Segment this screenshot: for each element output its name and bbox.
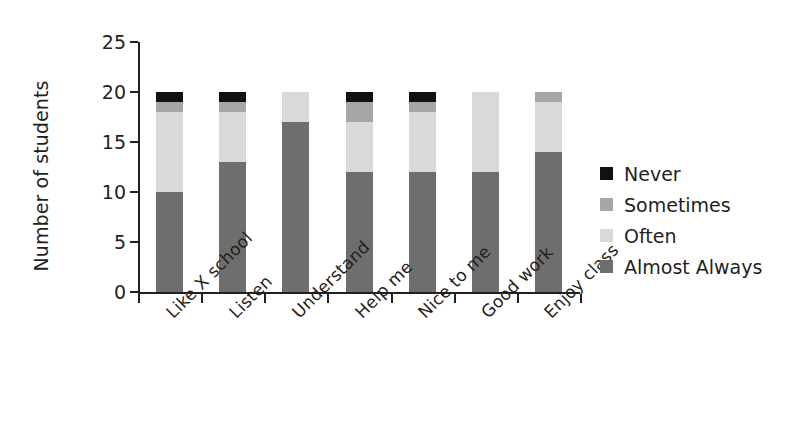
y-axis-tick: [130, 291, 138, 293]
bar-segment: [346, 122, 373, 172]
legend-item-label: Sometimes: [624, 194, 731, 216]
bar-segment: [409, 92, 436, 102]
legend-swatch-icon: [600, 167, 613, 180]
bar-segment: [156, 92, 183, 102]
bar-segment: [282, 92, 309, 122]
legend-item[interactable]: Never: [600, 158, 805, 189]
y-axis-tick-label: 0: [114, 281, 126, 303]
legend-item[interactable]: Sometimes: [600, 189, 805, 220]
legend: NeverSometimesOftenAlmost Always: [600, 158, 805, 282]
y-axis-tick-label: 20: [102, 81, 126, 103]
bar-segment: [219, 102, 246, 112]
y-axis-tick: [130, 241, 138, 243]
legend-swatch-icon: [600, 260, 613, 273]
bar-segment: [535, 92, 562, 102]
y-axis-tick: [130, 191, 138, 193]
y-axis-title: Number of students: [30, 51, 52, 301]
bar-segment: [219, 92, 246, 102]
legend-swatch-icon: [600, 229, 613, 242]
y-axis-line: [138, 42, 140, 294]
y-axis-tick-label: 15: [102, 131, 126, 153]
bar-segment: [156, 102, 183, 112]
bar-segment: [156, 112, 183, 192]
bar-segment: [156, 192, 183, 292]
bar-segment: [282, 122, 309, 292]
legend-item-label: Almost Always: [624, 256, 762, 278]
bar-segment: [219, 112, 246, 162]
legend-item-label: Often: [624, 225, 677, 247]
y-axis-tick: [130, 141, 138, 143]
x-axis-tick: [138, 294, 140, 303]
y-axis-tick: [130, 41, 138, 43]
y-axis-tick-label: 10: [102, 181, 126, 203]
bar: [282, 92, 309, 292]
bar-segment: [472, 92, 499, 172]
legend-swatch-icon: [600, 198, 613, 211]
bar-segment: [409, 102, 436, 112]
bar: [409, 92, 436, 292]
stacked-bar-chart: Number of students 0510152025 Like X sch…: [0, 0, 812, 440]
y-axis-tick-label: 25: [102, 31, 126, 53]
bar-segment: [535, 102, 562, 152]
legend-item[interactable]: Almost Always: [600, 251, 805, 282]
bar-segment: [346, 92, 373, 102]
y-axis-tick: [130, 91, 138, 93]
bar-segment: [409, 112, 436, 172]
bar: [156, 92, 183, 292]
bar-segment: [346, 102, 373, 122]
y-axis-tick-label: 5: [114, 231, 126, 253]
legend-item[interactable]: Often: [600, 220, 805, 251]
legend-item-label: Never: [624, 163, 681, 185]
